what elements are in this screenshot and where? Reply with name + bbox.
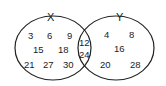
y-only-value: 20	[100, 59, 111, 70]
x-only-value: 9	[67, 30, 72, 41]
y-only-value: 8	[129, 29, 134, 40]
set-x-label: X	[47, 11, 55, 23]
x-only-value: 18	[58, 44, 69, 55]
set-x-ellipse	[15, 16, 91, 80]
y-only-value: 16	[114, 43, 125, 54]
x-only-value: 3	[28, 30, 33, 41]
y-only-value: 28	[130, 59, 141, 70]
x-only-value: 30	[63, 59, 74, 70]
x-only-value: 15	[33, 44, 44, 55]
intersection-value: 24	[79, 49, 90, 60]
venn-diagram: X Y 3 6 9 15 18 21 27 30 12 24 4 8 16 20…	[0, 0, 166, 86]
intersection-value: 12	[79, 37, 90, 48]
x-only-value: 27	[43, 59, 54, 70]
y-only-value: 4	[104, 29, 109, 40]
x-only-value: 6	[47, 30, 52, 41]
x-only-value: 21	[24, 59, 35, 70]
set-y-label: Y	[116, 11, 124, 23]
